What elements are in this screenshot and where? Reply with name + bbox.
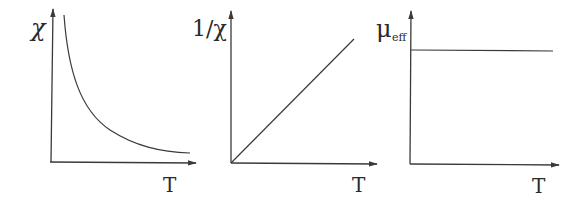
x-axis (410, 164, 559, 165)
x-axis-label-t: T (163, 173, 177, 197)
mu-eff-line (411, 50, 553, 51)
x-axis-label-t: T (532, 174, 546, 198)
y-axis-label-inverse-chi: 1/χ (192, 16, 227, 41)
curie-law-figure: χ T 1/χ T μ eff T (0, 0, 582, 207)
inverse-chi-line (231, 39, 354, 163)
panel-inverse-chi-vs-t: 1/χ T (192, 11, 377, 197)
chi-curve (64, 15, 190, 153)
y-axis-label-eff-subscript: eff (392, 31, 408, 44)
panel-mu-eff-vs-t: μ eff T (376, 11, 559, 198)
x-axis-label-t: T (352, 173, 366, 197)
y-axis-label-mu: μ (376, 15, 392, 43)
panel-chi-vs-t: χ T (29, 9, 196, 197)
x-axis (231, 163, 377, 164)
y-axis (410, 11, 411, 164)
x-axis (50, 162, 196, 163)
y-axis-label-chi: χ (29, 14, 47, 42)
y-axis (51, 9, 53, 162)
